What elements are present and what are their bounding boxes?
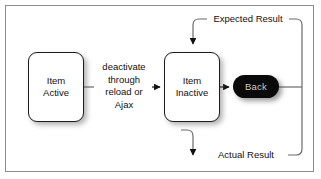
node-item-active-label: Item Active (43, 75, 69, 99)
edge-label-actual-result: Actual Result (203, 149, 289, 162)
diagram-canvas: Item Active Item Inactive Back deactivat… (0, 0, 321, 179)
edge-label-expected-result: Expected Result (205, 13, 291, 26)
back-button[interactable]: Back (233, 75, 279, 98)
back-button-label: Back (245, 81, 267, 92)
node-item-inactive-label: Item Inactive (176, 75, 209, 99)
node-item-inactive[interactable]: Item Inactive (164, 52, 220, 122)
edge-label-deactivate: deactivate through reload or Ajax (88, 61, 160, 111)
node-item-active[interactable]: Item Active (28, 52, 84, 122)
